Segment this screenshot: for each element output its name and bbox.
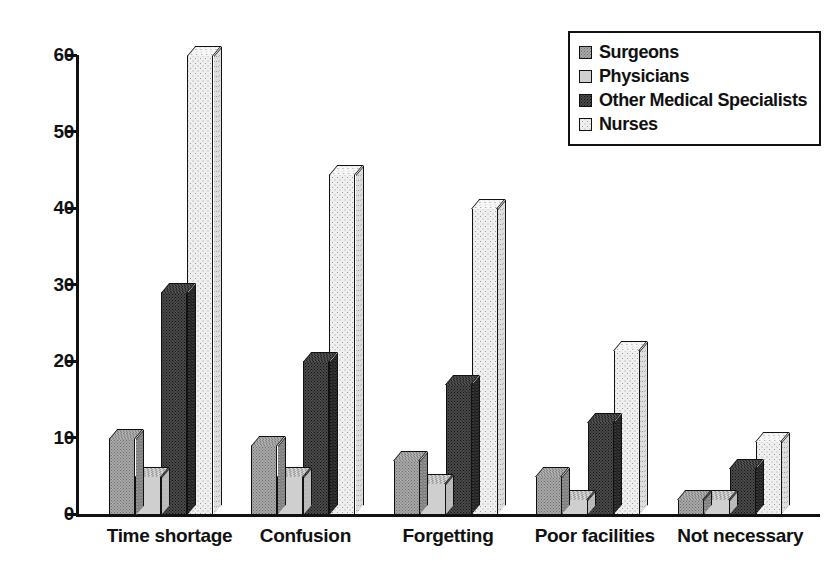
category-spacer — [504, 525, 535, 559]
category-spacer — [219, 525, 250, 559]
x-axis-category-label: Poor facilities — [535, 525, 647, 559]
bar-side-face — [330, 352, 338, 514]
bar-surgeons — [394, 460, 420, 514]
legend-swatch-surgeons — [579, 46, 592, 59]
y-axis-tick-label: 10 — [53, 427, 74, 449]
legend-item: Surgeons — [579, 40, 807, 64]
legend-item-label: Physicians — [599, 67, 689, 85]
bar-surgeons — [678, 499, 704, 514]
legend-swatch-nurses — [579, 118, 592, 131]
bar-group — [109, 55, 221, 514]
legend-item-label: Surgeons — [599, 43, 679, 61]
x-axis-line — [76, 514, 820, 517]
x-axis-category-label: Not necessary — [677, 525, 789, 559]
y-axis-tick-label: 30 — [53, 274, 74, 296]
category-spacer — [361, 525, 392, 559]
x-axis-category-label: Forgetting — [392, 525, 504, 559]
bar-side-face — [614, 414, 622, 514]
x-axis-category-label: Confusion — [249, 525, 361, 559]
category-spacer — [647, 525, 678, 559]
legend-item-label: Nurses — [599, 115, 658, 133]
bar-side-face — [472, 375, 480, 514]
legend-item: Physicians — [579, 64, 807, 88]
bar-group — [251, 55, 363, 514]
y-axis-tick-label: 40 — [53, 197, 74, 219]
category-spacer — [76, 525, 107, 559]
x-axis-category-label: Time shortage — [107, 525, 219, 559]
legend-item: Nurses — [579, 112, 807, 136]
bar-surgeons — [251, 445, 277, 514]
bar-chart: 0102030405060 Time shortageConfusionForg… — [0, 0, 831, 577]
bar-side-face — [356, 165, 364, 514]
category-spacer — [789, 525, 820, 559]
bar-side-face — [188, 284, 196, 514]
y-axis-tick-label: 0 — [64, 503, 74, 525]
legend-item-label: Other Medical Specialists — [599, 91, 807, 109]
legend-swatch-oms — [579, 94, 592, 107]
bar-side-face — [782, 433, 790, 514]
legend-swatch-physicians — [579, 70, 592, 83]
bar-side-face — [278, 437, 286, 514]
bar-side-face — [420, 452, 428, 514]
bar-surgeons — [536, 476, 562, 514]
y-axis-tick-label: 50 — [53, 121, 74, 143]
bar-side-face — [214, 46, 222, 514]
bar-side-face — [498, 199, 506, 514]
bar-group — [394, 55, 506, 514]
legend-item: Other Medical Specialists — [579, 88, 807, 112]
y-axis-tick-label: 60 — [53, 44, 74, 66]
bar-side-face — [136, 429, 144, 514]
x-axis-category-labels: Time shortageConfusionForgettingPoor fac… — [76, 525, 820, 559]
y-axis-tick-label: 20 — [53, 350, 74, 372]
chart-legend: SurgeonsPhysiciansOther Medical Speciali… — [568, 31, 821, 146]
bar-side-face — [640, 341, 648, 514]
bar-surgeons — [109, 438, 135, 515]
